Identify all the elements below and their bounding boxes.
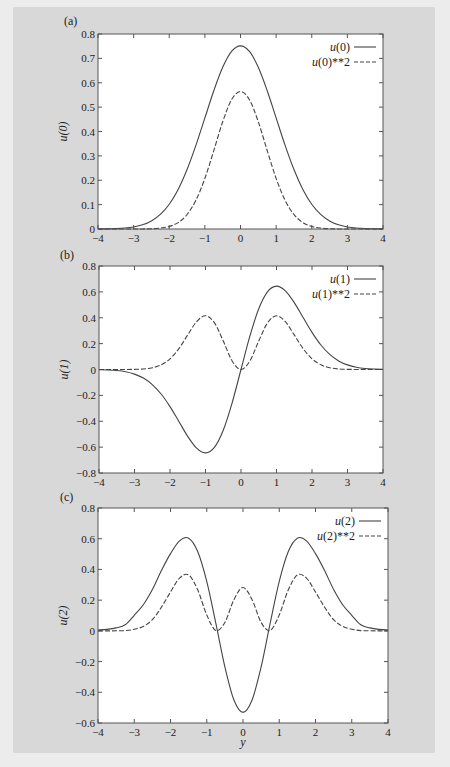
x-tick-label: −1 (201, 726, 213, 738)
y-tick-label: 0.5 (81, 101, 95, 113)
y-tick-label: 0 (91, 364, 97, 376)
y-tick-label: −0.4 (75, 686, 95, 698)
x-tick-label: 4 (385, 726, 391, 738)
y-axis-title: u(1) (57, 360, 71, 380)
y-axis-title: u(0) (56, 122, 70, 142)
y-tick-label: 0.8 (81, 502, 95, 514)
y-tick-label: 0.1 (81, 199, 95, 211)
legend-label: u(1)**2 (312, 287, 350, 301)
x-tick-label: −3 (128, 726, 140, 738)
y-tick-label: 0.4 (81, 563, 95, 575)
y-tick-label: 0.2 (82, 338, 96, 350)
x-tick-label: 1 (273, 232, 279, 244)
y-tick-label: −0.2 (76, 389, 96, 401)
x-tick-label: 3 (349, 726, 355, 738)
legend-label: u(2) (335, 514, 355, 528)
x-tick-label: 1 (274, 476, 280, 488)
x-tick-label: 1 (277, 726, 283, 738)
y-tick-label: 0.2 (81, 174, 95, 186)
y-tick-label: −0.2 (75, 656, 95, 668)
panel-c: (c) −4−3−2−101234−0.6−0.4−0.200.20.40.60… (56, 490, 391, 749)
y-tick-label: 0.4 (81, 126, 95, 138)
panel-a: (a) −4−3−2−10123400.10.20.30.40.50.60.70… (56, 14, 386, 244)
y-tick-label: 0.4 (82, 312, 96, 324)
legend-label: u(0)**2 (312, 55, 350, 69)
y-axis-title: u(2) (56, 606, 70, 626)
x-tick-label: 2 (313, 726, 319, 738)
y-tick-label: 0 (90, 625, 96, 637)
x-tick-label: 0 (238, 476, 244, 488)
x-axis-title: y (239, 735, 246, 749)
y-tick-label: −0.6 (75, 717, 95, 729)
panel-b-label: (b) (60, 248, 74, 262)
x-tick-label: −3 (129, 476, 141, 488)
panel-a-label: (a) (64, 14, 77, 28)
x-tick-label: 2 (309, 476, 315, 488)
y-tick-label: 0.8 (82, 260, 96, 272)
x-tick-label: 0 (238, 232, 244, 244)
x-tick-label: 4 (380, 476, 386, 488)
x-tick-label: −1 (200, 476, 212, 488)
y-tick-label: 0.3 (81, 150, 95, 162)
panel-c-label: (c) (60, 490, 73, 504)
y-tick-label: −0.6 (76, 441, 96, 453)
legend-label: u(2)**2 (317, 529, 355, 543)
x-tick-label: −1 (199, 232, 211, 244)
legend-label: u(0) (330, 40, 350, 54)
x-tick-label: −3 (128, 232, 140, 244)
y-tick-label: 0.7 (81, 52, 95, 64)
y-tick-label: −0.4 (76, 415, 96, 427)
x-tick-label: −2 (163, 232, 175, 244)
y-tick-label: 0.8 (81, 28, 95, 40)
y-tick-label: 0.6 (81, 533, 95, 545)
x-tick-label: −2 (164, 476, 176, 488)
y-tick-label: 0.6 (81, 77, 95, 89)
panel-b: (b) −4−3−2−101234−0.8−0.6−0.4−0.200.20.4… (57, 248, 386, 488)
legend-label: u(1) (330, 272, 350, 286)
x-tick-label: 2 (309, 232, 315, 244)
y-tick-label: −0.8 (76, 467, 96, 479)
y-tick-label: 0 (90, 223, 96, 235)
x-tick-label: 3 (345, 232, 351, 244)
x-tick-label: −2 (165, 726, 177, 738)
x-tick-label: 3 (345, 476, 351, 488)
x-tick-label: 4 (380, 232, 386, 244)
figure-canvas: (a) −4−3−2−10123400.10.20.30.40.50.60.70… (0, 0, 450, 767)
y-tick-label: 0.6 (82, 286, 96, 298)
y-tick-label: 0.2 (81, 594, 95, 606)
